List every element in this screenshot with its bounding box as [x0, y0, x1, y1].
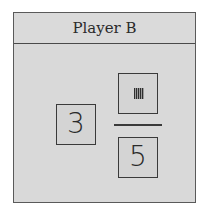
striped-placeholder-icon: [134, 88, 144, 99]
whole-number-box[interactable]: 3: [56, 104, 96, 145]
numerator-box[interactable]: [118, 73, 158, 114]
player-panel: Player B 3 5: [13, 12, 196, 203]
fraction-bar: [114, 124, 162, 126]
denominator-box[interactable]: 5: [118, 137, 158, 178]
panel-title: Player B: [14, 13, 195, 44]
